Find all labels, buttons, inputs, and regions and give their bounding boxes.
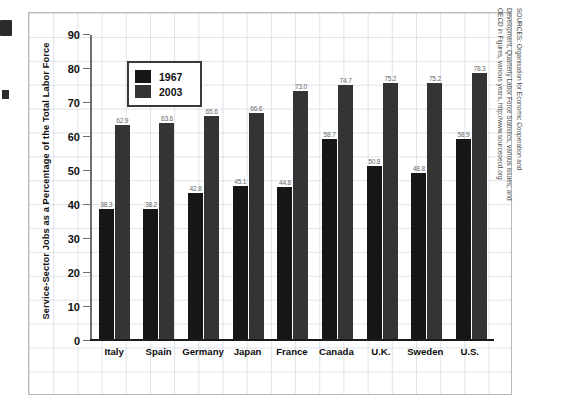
category-label-uk: U.K. [359,346,403,362]
y-tick-label-20: 20 [68,267,80,279]
bar-japan-2003: 66.6 [249,113,264,339]
y-tick-60 [83,136,90,137]
bar-group-canada: 58.774.7 [322,35,353,339]
y-tick-20 [83,272,90,273]
y-tick-40 [83,204,90,205]
legend-entry-1967: 1967 [135,70,194,83]
bar-value-label: 75.2 [384,75,396,82]
y-tick-label-80: 80 [68,63,80,75]
y-tick-label-90: 90 [68,29,80,41]
bar-germany-2003: 65.6 [204,116,219,339]
bar-value-label: 50.8 [368,158,380,165]
bar-canada-1967: 58.7 [322,139,337,339]
bar-italy-2003: 62.9 [115,125,130,339]
chart-legend: 1967 2003 [127,61,202,107]
bar-us-1967: 58.9 [456,139,471,339]
bar-value-label: 38.3 [100,201,112,208]
bar-uk-2003: 75.2 [383,83,398,339]
bar-value-label: 63.6 [161,115,173,122]
bar-us-2003: 78.3 [472,73,487,339]
bar-japan-1967: 45.1 [233,186,248,339]
bar-uk-1967: 50.8 [367,166,382,339]
bar-value-label: 58.9 [458,131,470,138]
bar-spain-2003: 63.6 [159,123,174,339]
bar-value-label: 48.8 [413,165,425,172]
bar-italy-1967: 38.3 [99,209,114,339]
y-tick-label-0: 0 [74,335,80,347]
y-tick-label-40: 40 [68,199,80,211]
legend-swatch-2003 [135,85,151,98]
bar-value-label: 65.6 [206,108,218,115]
bar-value-label: 78.3 [474,65,486,72]
bar-group-japan: 45.166.6 [233,35,264,339]
category-label-canada: Canada [314,346,358,362]
bar-group-us: 58.978.3 [456,35,487,339]
bar-sweden-1967: 48.8 [411,173,426,339]
y-tick-10 [83,306,90,307]
page-edge-artifact-middle [2,90,9,99]
y-tick-label-70: 70 [68,97,80,109]
bar-value-label: 66.6 [250,105,262,112]
category-label-france: France [270,346,314,362]
category-label-us: U.S. [448,346,492,362]
bar-group-france: 44.873.0 [277,35,308,339]
x-axis-line [90,339,494,341]
legend-label-1967: 1967 [159,71,182,83]
bar-value-label: 74.7 [340,77,352,84]
y-tick-80 [83,68,90,69]
bar-value-label: 73.0 [295,83,307,90]
bar-value-label: 44.8 [279,179,291,186]
source-line-2: OECD in Figures, various years, http://w… [497,8,504,180]
bar-spain-1967: 38.2 [143,209,158,339]
bar-value-label: 62.9 [116,117,128,124]
category-label-japan: Japan [225,346,269,362]
chart-figure: Service-Sector Jobs as a Percentage of t… [28,12,512,395]
bar-group-uk: 50.875.2 [367,35,398,339]
bar-germany-1967: 42.8 [188,193,203,339]
bar-group-italy: 38.362.9 [99,35,130,339]
category-label-sweden: Sweden [403,346,447,362]
source-note: SOURCES: Organisation for Economic Coope… [496,8,525,204]
bar-value-label: 45.1 [234,178,246,185]
category-label-germany: Germany [181,346,225,362]
y-tick-label-50: 50 [68,165,80,177]
y-tick-90 [83,34,90,35]
y-tick-50 [83,170,90,171]
category-label-spain: Spain [136,346,180,362]
y-tick-0 [83,340,90,341]
y-axis-title: Service-Sector Jobs as a Percentage of t… [41,31,57,331]
legend-entry-2003: 2003 [135,85,194,98]
legend-swatch-1967 [135,70,151,83]
y-tick-30 [83,238,90,239]
source-line-1: SOURCES: Organisation for Economic Coope… [507,8,524,201]
bar-value-label: 75.2 [429,75,441,82]
y-tick-70 [83,102,90,103]
bar-france-1967: 44.8 [277,187,292,339]
bar-value-label: 42.8 [190,185,202,192]
legend-label-2003: 2003 [159,86,182,98]
bar-value-label: 58.7 [324,131,336,138]
bar-value-label: 38.2 [145,201,157,208]
category-label-italy: Italy [92,346,136,362]
bar-canada-2003: 74.7 [338,85,353,339]
bar-sweden-2003: 75.2 [427,83,442,339]
y-tick-label-30: 30 [68,233,80,245]
x-axis-category-labels: ItalySpainGermanyJapanFranceCanadaU.K.Sw… [92,346,492,362]
bar-group-sweden: 48.875.2 [411,35,442,339]
bar-france-2003: 73.0 [293,91,308,339]
y-tick-label-10: 10 [68,301,80,313]
page-edge-artifact-top [0,20,12,36]
y-tick-label-60: 60 [68,131,80,143]
